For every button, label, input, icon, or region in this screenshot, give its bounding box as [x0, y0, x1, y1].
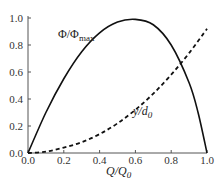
series-lines: [28, 19, 207, 153]
y-tick-label: 0.0: [9, 147, 23, 159]
x-tick-label: 0.6: [129, 154, 143, 166]
series-y-d0-line: [28, 29, 207, 153]
x-tick-label: 0.8: [164, 154, 178, 166]
series-phi-line: [28, 19, 207, 153]
x-axis-label: Q/Q0: [106, 164, 132, 180]
y-tick-label: 1.0: [9, 12, 23, 24]
y-tick-label: 0.8: [9, 39, 23, 51]
phi-label: Φ/Φmax: [58, 27, 95, 43]
axes: [28, 16, 207, 153]
y-d0-label: y/d0: [132, 104, 153, 120]
chart: 0.00.20.40.60.81.00.00.20.40.60.81.0 Φ/Φ…: [0, 0, 221, 183]
tick-labels: 0.00.20.40.60.81.00.00.20.40.60.81.0: [9, 12, 214, 166]
x-tick-label: 1.0: [200, 154, 214, 166]
y-tick-label: 0.6: [9, 66, 23, 78]
x-tick-label: 0.4: [93, 154, 107, 166]
x-tick-label: 0.2: [57, 154, 71, 166]
y-tick-label: 0.2: [9, 120, 23, 132]
x-tick-label: 0.0: [21, 154, 35, 166]
y-tick-label: 0.4: [9, 93, 23, 105]
